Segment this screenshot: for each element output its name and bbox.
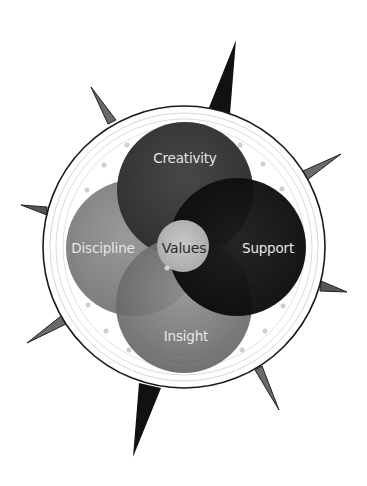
spike-major-north (208, 40, 236, 114)
diagram-canvas (0, 0, 367, 486)
spike-minor-west (21, 205, 47, 215)
circle-values (157, 220, 209, 272)
values-highlight (165, 266, 170, 271)
spike-major-south (133, 383, 161, 457)
spike-minor-southeast (255, 366, 279, 410)
spike-minor-east (320, 281, 347, 292)
compass-venn-diagram: Creativity Discipline Support Insight Va… (0, 0, 367, 486)
spike-minor-northeast (303, 154, 341, 180)
spike-minor-southwest (27, 316, 66, 343)
spike-minor-northwest (91, 87, 116, 124)
